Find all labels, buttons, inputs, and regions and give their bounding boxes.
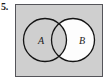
venn-label-a: A	[37, 35, 45, 46]
exercise-number: 5.	[1, 1, 8, 12]
venn-diagram-svg: A B	[15, 4, 103, 77]
venn-label-b: B	[79, 35, 85, 46]
venn-circle-a	[24, 19, 67, 62]
exercise-figure: 5. A B	[0, 0, 106, 81]
venn-diagram-panel: A B	[15, 4, 103, 77]
